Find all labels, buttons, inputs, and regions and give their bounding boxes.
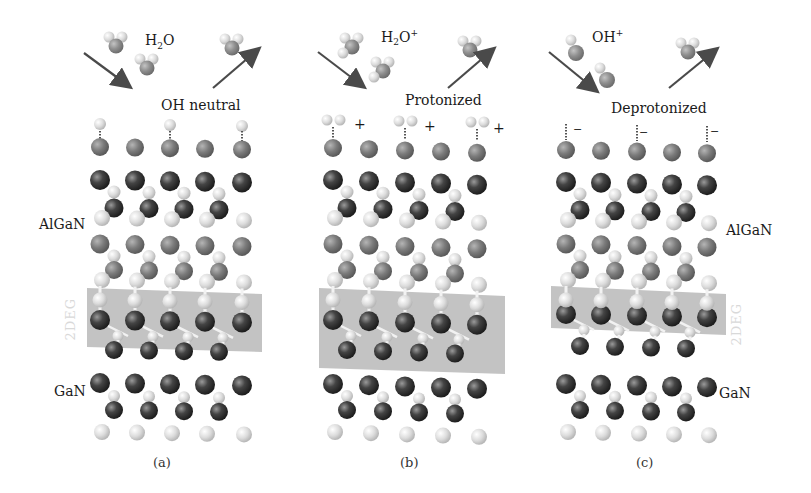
- n-atom: [236, 274, 252, 290]
- n-atom: [471, 277, 487, 293]
- surface-al-atom: [628, 143, 646, 161]
- oxygen-atom: [225, 41, 240, 56]
- n-atom: [413, 188, 426, 201]
- n-atom: [435, 214, 451, 230]
- ga-atom: [677, 403, 695, 421]
- surface-al-atom: [698, 144, 716, 162]
- ga-atom: [125, 374, 145, 394]
- n-atom: [666, 426, 682, 442]
- n-atom: [680, 392, 692, 404]
- n-atom: [700, 296, 715, 311]
- oxygen-atom: [568, 45, 584, 61]
- n-atom: [645, 392, 657, 404]
- ga-atom: [232, 312, 252, 332]
- panel-caption-c: (c): [636, 455, 653, 470]
- ga-atom: [467, 315, 487, 335]
- n-atom: [236, 426, 252, 442]
- ga-atom: [232, 375, 252, 395]
- n-atom: [93, 293, 108, 308]
- n-atom: [701, 427, 717, 443]
- surface-state-label-a: OH neutral: [161, 98, 241, 112]
- n-atom: [650, 326, 661, 337]
- n-atom: [399, 274, 415, 290]
- n-atom: [631, 274, 647, 290]
- ga-atom: [431, 378, 451, 398]
- surface-charge-c-2: −: [639, 127, 648, 138]
- n-atom: [685, 327, 696, 338]
- n-atom: [213, 392, 225, 404]
- surface-al-atom: [663, 143, 681, 161]
- n-atom: [454, 334, 465, 345]
- species-base: H: [381, 29, 393, 45]
- n-atom: [199, 274, 215, 290]
- incoming-arrow-b: [318, 52, 360, 84]
- n-atom: [108, 186, 121, 199]
- surface-al-atom: [126, 139, 144, 157]
- n-atom: [609, 391, 621, 403]
- ga-atom: [556, 374, 576, 394]
- n-atom: [108, 250, 121, 263]
- n-atom: [129, 211, 145, 227]
- n-atom: [363, 211, 379, 227]
- hydrogen-atom: [335, 115, 346, 126]
- n-atom: [235, 295, 250, 310]
- n-atom: [609, 188, 622, 201]
- n-atom: [665, 295, 680, 310]
- hydrogen-atom: [566, 35, 577, 46]
- ga-atom: [323, 310, 343, 330]
- surface-al-atom: [324, 139, 342, 157]
- n-atom: [470, 297, 485, 312]
- n-atom: [574, 250, 587, 263]
- ga-atom: [359, 171, 379, 191]
- n-atom: [595, 273, 611, 289]
- n-atom: [213, 251, 226, 264]
- incoming-species-label-c: OH+: [592, 29, 623, 44]
- n-atom: [574, 390, 586, 402]
- ga-atom: [571, 401, 589, 419]
- n-atom: [199, 426, 215, 442]
- species-superscript: +: [616, 28, 624, 38]
- ga-atom: [338, 401, 356, 419]
- al-atom: [233, 237, 252, 256]
- n-atom: [574, 188, 587, 201]
- ga-atom: [606, 402, 624, 420]
- panel-caption-b: (b): [400, 455, 418, 470]
- surface-charge-b-3: +: [493, 121, 505, 135]
- ga-atom: [359, 375, 379, 395]
- ga-atom: [210, 403, 228, 421]
- ga-atom: [395, 172, 415, 192]
- n-atom: [218, 332, 229, 343]
- n-atom: [346, 331, 357, 342]
- algan-label-c: AlGaN: [726, 223, 772, 237]
- ga-atom: [467, 379, 487, 399]
- ga-atom: [591, 375, 611, 395]
- species-base: H: [145, 32, 157, 48]
- hydrogen-atom: [479, 117, 490, 128]
- n-atom: [341, 390, 353, 402]
- n-atom: [362, 294, 377, 309]
- gan-label-c: GaN: [719, 386, 751, 400]
- n-atom: [129, 273, 145, 289]
- hydrogen-atom: [338, 48, 349, 59]
- ga-atom: [697, 175, 717, 195]
- n-atom: [449, 253, 462, 266]
- n-atom: [178, 251, 191, 264]
- ga-atom: [175, 402, 193, 420]
- n-atom: [382, 332, 393, 343]
- hydrogen-atom: [394, 116, 405, 127]
- n-atom: [449, 394, 461, 406]
- hydrogen-atom: [164, 119, 176, 131]
- n-atom: [113, 331, 124, 342]
- n-atom: [327, 424, 343, 440]
- ga-atom: [160, 311, 180, 331]
- surface-state-label-c: Deprotonized: [611, 101, 707, 115]
- n-atom: [164, 273, 180, 289]
- n-atom: [148, 331, 159, 342]
- n-atom: [143, 250, 156, 263]
- al-atom: [91, 235, 110, 254]
- al-atom: [468, 239, 487, 258]
- ga-atom: [677, 339, 695, 357]
- al-atom: [196, 236, 215, 255]
- ga-atom: [571, 337, 589, 355]
- surface-al-atom: [233, 140, 251, 158]
